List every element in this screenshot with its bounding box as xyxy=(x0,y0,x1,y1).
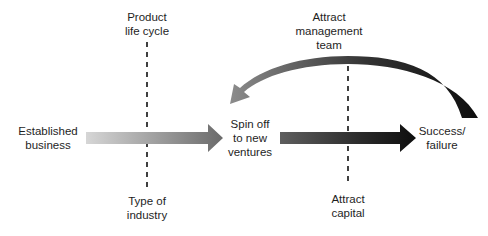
label-line: Spin off xyxy=(228,117,272,131)
feedback-curved-arrow xyxy=(230,56,478,118)
label-line: capital xyxy=(331,206,364,220)
label-spin-off: Spin off to new ventures xyxy=(228,117,272,159)
label-established-business: Established business xyxy=(18,124,77,152)
label-line: to new xyxy=(228,131,272,145)
label-success-failure: Success/ failure xyxy=(419,124,466,152)
label-line: Attract xyxy=(331,192,364,206)
label-line: industry xyxy=(127,208,167,222)
label-line: management xyxy=(295,24,362,38)
label-attract-management-team: Attract management team xyxy=(295,10,362,52)
label-line: ventures xyxy=(228,145,272,159)
label-line: Product xyxy=(125,10,169,24)
label-line: life cycle xyxy=(125,24,169,38)
label-line: Established xyxy=(18,124,77,138)
label-product-life-cycle: Product life cycle xyxy=(125,10,169,38)
label-type-of-industry: Type of industry xyxy=(127,194,167,222)
label-line: business xyxy=(18,138,77,152)
arrow-established-to-spinoff xyxy=(86,124,223,152)
label-line: Type of xyxy=(127,194,167,208)
label-line: team xyxy=(295,38,362,52)
label-line: failure xyxy=(419,138,466,152)
label-line: Attract xyxy=(295,10,362,24)
label-attract-capital: Attract capital xyxy=(331,192,364,220)
label-line: Success/ xyxy=(419,124,466,138)
